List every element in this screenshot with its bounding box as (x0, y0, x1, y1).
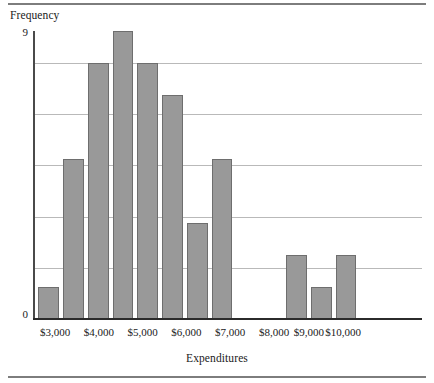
y-axis-line (33, 31, 35, 319)
bar (187, 223, 208, 319)
histogram-figure: Frequency 9 0 $3,000$4,000$5,000$6,000$7… (0, 0, 434, 383)
bar (63, 159, 84, 319)
top-rule-divider (8, 3, 426, 5)
y-tick-label-max: 9 (6, 26, 28, 38)
bar (336, 255, 357, 319)
bar (88, 63, 109, 319)
bar (311, 287, 332, 319)
bar (113, 31, 134, 319)
plot-area (33, 31, 422, 319)
y-axis-title: Frequency (10, 9, 59, 21)
bar (212, 159, 233, 319)
bar (162, 95, 183, 319)
bar (137, 63, 158, 319)
bar (286, 255, 307, 319)
x-axis-line (33, 318, 422, 320)
bottom-rule-divider (8, 376, 426, 378)
x-tick-label: $10,000 (315, 326, 371, 338)
x-axis-title: Expenditures (0, 352, 434, 364)
y-tick-label-min: 0 (6, 308, 28, 320)
bar (38, 287, 59, 319)
